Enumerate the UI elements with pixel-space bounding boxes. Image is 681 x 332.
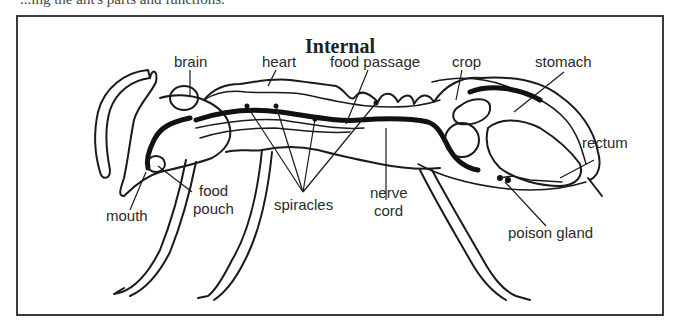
ant-internal-diagram: brain heart food passage crop stomach re…: [0, 0, 681, 332]
stinger: [588, 178, 602, 196]
label-food-passage: food passage: [330, 53, 420, 70]
label-mouth: mouth: [106, 207, 148, 224]
label-nerve-cord-line1: nerve: [370, 184, 408, 201]
leader-rectum: [560, 160, 594, 178]
label-stomach: stomach: [535, 53, 592, 70]
label-poison-gland: poison gland: [508, 224, 593, 241]
label-food-pouch-line2: pouch: [193, 200, 234, 217]
leader-spiracle: [276, 106, 303, 192]
label-food-pouch-line1: food: [199, 182, 228, 199]
leader-food-pouch: [158, 166, 192, 192]
leader-mouth: [130, 172, 146, 210]
legs: [114, 150, 530, 300]
leader-poison-gland: [505, 182, 546, 226]
label-crop: crop: [452, 53, 481, 70]
label-nerve-cord-line2: cord: [374, 202, 403, 219]
body-outline: [196, 78, 600, 190]
label-heart: heart: [262, 53, 297, 70]
label-spiracles: spiracles: [274, 196, 333, 213]
leader-heart: [268, 70, 276, 86]
leader-crop: [456, 70, 462, 100]
antenna: [95, 70, 150, 178]
label-brain: brain: [174, 53, 207, 70]
leader-spiracle: [303, 119, 315, 192]
label-rectum: rectum: [582, 134, 628, 151]
